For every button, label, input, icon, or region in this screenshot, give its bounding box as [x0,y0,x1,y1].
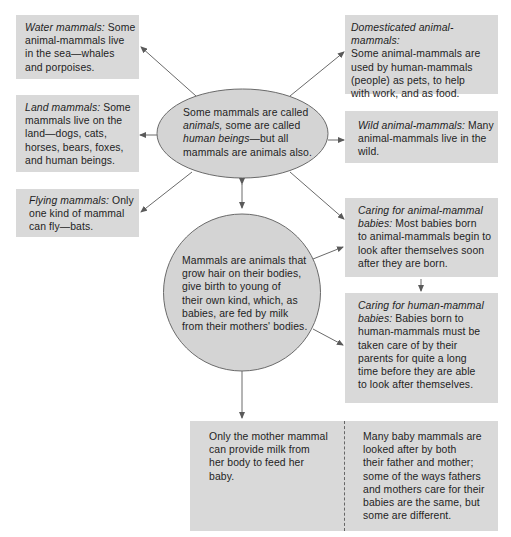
land-mammals-box: Land mammals: Some mammals live on the l… [16,95,139,172]
caring-human-title: Caring for human-mammal [358,300,484,311]
domesticated-line: with work, and as food. [351,87,498,100]
bottom-split-box: Only the mother mammal can provide milk … [190,421,498,531]
domesticated-mammals-title: Domesticated animal-mammals: [351,22,453,46]
water-line: and porpoises. [25,61,139,74]
caring-animal-line: to animal-mammals begin to [358,230,498,243]
water-line-1: Water mammals: Some [25,21,139,34]
land-mammals-title: Land mammals: [25,102,100,113]
caring-animal-line-2: babies: Most babies born [358,217,498,230]
ellipse-line-3-rest: —but all [249,133,288,144]
land-line: land—dogs, cats, [25,127,139,140]
core-circle-text: Mammals are animals that grow hair on th… [182,254,314,333]
ellipse-line-4: mammals are animals also. [183,146,313,159]
mother-milk-text: Only the mother mammal can provide milk … [209,430,339,483]
water-line: in the sea—whales [25,47,139,60]
caring-human-line: human-mammals must be [358,325,498,338]
flying-line-1: Flying mammals: Only [29,194,139,207]
water-line-1-rest: Some [105,22,136,33]
ellipse-line-3: human beings—but all [183,132,313,145]
parent-care-line: and mothers care for their [363,483,498,496]
caring-human-title-2: babies: [358,313,392,324]
wild-line: animal-mammals live in the [358,132,498,145]
parent-care-line: their father and mother; [363,456,498,469]
domesticated-mammals-box: Domesticated animal-mammals: Some animal… [345,15,498,94]
parent-care-line: Many baby mammals are [363,430,498,443]
caring-animal-line-1: Caring for animal-mammal [358,204,498,217]
arrow-to-caring-animal [290,172,344,219]
water-mammals-title: Water mammals: [25,22,105,33]
land-line: mammals live on the [25,114,139,127]
arrow-circle-to-caring-animal [313,247,343,259]
caring-human-line: time before they are able [358,365,498,378]
land-line-1-rest: Some [100,102,131,113]
caring-human-line: taken care of by their [358,339,498,352]
mother-milk-line: Only the mother mammal [209,430,339,443]
caring-human-line-1: Caring for human-mammal [358,299,498,312]
parent-care-line: looked after by both [363,443,498,456]
flying-line: one kind of mammal [29,207,139,220]
domesticated-line-1: Domesticated animal-mammals: [351,21,498,47]
land-line: horses, bears, foxes, [25,141,139,154]
flying-line: can fly—bats. [29,220,139,233]
domesticated-line: Some animal-mammals are [351,47,498,60]
parent-care-line: babies are the same, but [363,496,498,509]
arrow-to-flying [141,172,192,212]
wild-mammals-title: Wild animal-mammals: [358,120,465,131]
flying-line-1-rest: Only [109,195,134,206]
parent-care-line: some of the ways fathers [363,470,498,483]
wild-line-1: Wild animal-mammals: Many [358,119,498,132]
water-line: animal-mammals live [25,34,139,47]
arrow-circle-to-caring-human [313,329,343,345]
wild-line-1-rest: Many [465,120,494,131]
caring-animal-line: look after themselves soon [358,244,498,257]
parent-care-text: Many baby mammals are looked after by bo… [363,430,498,522]
water-mammals-box: Water mammals: Some animal-mammals live … [16,15,139,79]
caring-human-line: parents for quite a long [358,352,498,365]
ellipse-line-2-rest: some are called [223,120,301,131]
circle-line: give birth to young of [182,280,314,293]
dashed-divider [344,421,345,531]
caring-human-line: to look after themselves. [358,378,498,391]
flying-mammals-title: Flying mammals: [29,195,109,206]
land-line-1: Land mammals: Some [25,101,139,114]
arrow-to-domesticated [290,52,344,96]
mother-milk-line: baby. [209,470,339,483]
central-ellipse-text: Some mammals are called animals, some ar… [183,106,313,159]
caring-human-babies-box: Caring for human-mammal babies: Babies b… [345,293,498,403]
ellipse-human-beings-term: human beings [183,133,249,144]
caring-human-line-2-rest: Babies born to [392,313,463,324]
circle-line: their own kind, which, as [182,294,314,307]
ellipse-line-1: Some mammals are called [183,106,313,119]
caring-animal-title: Caring for animal-mammal [358,205,483,216]
circle-line: grow hair on their bodies, [182,267,314,280]
caring-animal-babies-box: Caring for animal-mammal babies: Most ba… [345,198,498,277]
parent-care-line: some are different. [363,509,498,522]
wild-mammals-box: Wild animal-mammals: Many animal-mammals… [345,111,498,163]
domesticated-line: (people) as pets, to help [351,74,498,87]
ellipse-animals-term: animals, [183,120,223,131]
domesticated-line: used by human-mammals [351,61,498,74]
ellipse-line-2: animals, some are called [183,119,313,132]
caring-human-line-2: babies: Babies born to [358,312,498,325]
circle-line: babies, are fed by milk [182,307,314,320]
mother-milk-line: her body to feed her [209,456,339,469]
mother-milk-line: can provide milk from [209,443,339,456]
caring-animal-line: after they are born. [358,257,498,270]
circle-line: Mammals are animals that [182,254,314,267]
flying-mammals-box: Flying mammals: Only one kind of mammal … [16,189,139,237]
caring-animal-line-2-rest: Most babies born [392,218,476,229]
wild-line: wild. [358,145,498,158]
land-line: and human beings. [25,154,139,167]
arrow-to-water [141,47,196,96]
circle-line: from their mothers' bodies. [182,320,314,333]
caring-animal-title-2: babies: [358,218,392,229]
